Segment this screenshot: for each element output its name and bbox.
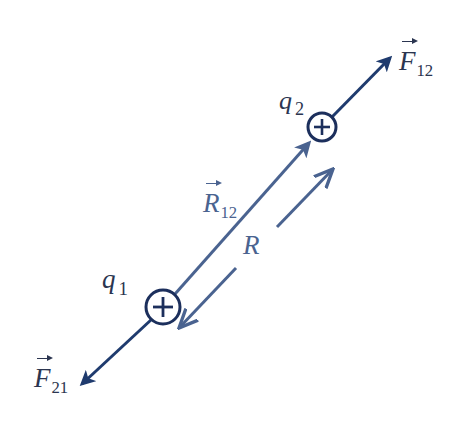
distance-symbol: R	[243, 230, 260, 260]
q2-symbol: q	[279, 86, 292, 115]
f12-force-arrow	[332, 58, 390, 117]
r12-label: R12	[203, 190, 237, 222]
f12-subscript: 12	[417, 61, 434, 80]
f21-subscript: 21	[52, 378, 69, 397]
f12-label: F12	[399, 48, 433, 80]
q1-subscript: 1	[119, 278, 128, 299]
f21-symbol: F	[34, 365, 51, 392]
distance-label: R	[243, 232, 260, 259]
charge-q2	[308, 113, 336, 141]
r12-subscript: 12	[221, 203, 238, 222]
f21-force-arrow	[82, 319, 152, 384]
q1-label: q1	[102, 266, 128, 299]
r12-vector-arrow	[175, 143, 309, 294]
f12-symbol: F	[399, 48, 416, 75]
q2-label: q2	[279, 88, 304, 119]
distance-arrow-upper	[277, 169, 333, 227]
distance-arrow-lower	[179, 268, 236, 328]
q1-symbol: q	[102, 264, 116, 294]
r12-symbol: R	[203, 190, 220, 217]
q2-subscript: 2	[295, 99, 304, 119]
charge-q1	[146, 290, 180, 324]
f21-label: F21	[34, 365, 68, 397]
